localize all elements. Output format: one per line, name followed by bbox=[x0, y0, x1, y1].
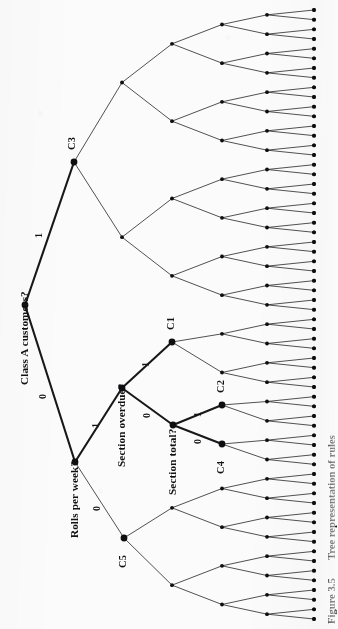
decision-label-root: Class A customers? bbox=[19, 291, 30, 385]
class-label-C2: C2 bbox=[216, 380, 226, 393]
edge-label-root-rolls: 0 bbox=[38, 394, 48, 399]
edge-label-overdue-total: 0 bbox=[142, 413, 152, 418]
tree-edges-thin bbox=[74, 10, 314, 619]
tree-nodes bbox=[120, 8, 316, 621]
class-label-C1: C1 bbox=[166, 317, 176, 330]
class-label-C3: C3 bbox=[67, 137, 77, 150]
decision-label-section-overdue: Section overdue? bbox=[116, 384, 127, 467]
class-label-C5: C5 bbox=[118, 555, 128, 568]
tree-nodes-emphasized bbox=[22, 159, 226, 542]
edge-label-rolls-overdue: 1 bbox=[91, 423, 101, 428]
edge-label-overdue-C1: 1 bbox=[141, 362, 151, 367]
edge-label-rolls-C5: 0 bbox=[92, 506, 102, 511]
edge-label-total-C2: 1 bbox=[193, 412, 203, 417]
edge-label-root-C3: 1 bbox=[34, 233, 44, 238]
decision-label-section-total: Section total? bbox=[167, 429, 178, 495]
figure-caption-number: Figure 3.5 bbox=[327, 578, 338, 624]
class-label-C4: C4 bbox=[216, 461, 226, 474]
figure-caption-text: Tree representation of rules bbox=[327, 435, 338, 560]
edge-label-total-C4: 0 bbox=[193, 439, 203, 444]
decision-label-rolls-per-week: Rolls per week? bbox=[69, 461, 80, 538]
